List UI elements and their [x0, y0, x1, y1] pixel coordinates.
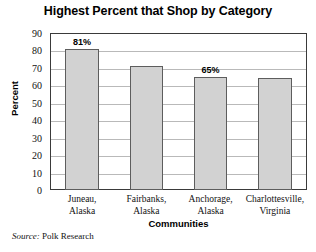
x-axis-tick-label-line: Fairbanks, [110, 193, 182, 205]
bar-slot: 81% [65, 33, 98, 190]
y-axis-tick-label: 70 [32, 62, 42, 73]
bar-slot [130, 33, 163, 190]
bar[interactable] [194, 77, 227, 190]
x-axis-tick-label-line: Virginia [239, 205, 311, 217]
x-axis-title: Communities [50, 218, 307, 229]
x-axis-tick-label: Charlottesville,Virginia [239, 193, 311, 217]
y-axis-tick-label: 20 [32, 150, 42, 161]
y-axis-tick-label: 90 [32, 28, 42, 39]
x-axis-tick-label: Juneau,Alaska [46, 193, 118, 217]
bar-chart-figure: Highest Percent that Shop by Category Pe… [0, 0, 316, 252]
y-axis-tick-label: 30 [32, 132, 42, 143]
bar-slot: 65% [194, 33, 227, 190]
y-axis-tick-label: 0 [37, 185, 42, 196]
source-text: Polk Research [42, 231, 94, 241]
source-label: Source: [12, 231, 40, 241]
y-axis-tick-label: 10 [32, 167, 42, 178]
y-axis-tick-label: 50 [32, 97, 42, 108]
x-axis-tick-label-line: Alaska [46, 205, 118, 217]
y-axis-tick-label: 80 [32, 45, 42, 56]
bar[interactable] [130, 66, 163, 190]
x-axis-tick-label: Fairbanks,Alaska [110, 193, 182, 217]
x-axis-tick-label-line: Anchorage, [175, 193, 247, 205]
y-axis-tick-labels: 0102030405060708090 [0, 33, 46, 190]
x-axis-tick-label: Anchorage,Alaska [175, 193, 247, 217]
y-axis-tick-label: 60 [32, 80, 42, 91]
source-note: Source: Polk Research [12, 231, 94, 241]
bars-layer: 81%65% [50, 33, 307, 190]
bar-value-label: 65% [202, 65, 220, 75]
x-axis-tick-label-line: Juneau, [46, 193, 118, 205]
y-axis-tick-label: 40 [32, 115, 42, 126]
bar[interactable] [258, 78, 291, 190]
bar-slot [258, 33, 291, 190]
x-axis-tick-label-line: Charlottesville, [239, 193, 311, 205]
bar-value-label: 81% [73, 37, 91, 47]
x-axis-tick-label-line: Alaska [110, 205, 182, 217]
bar[interactable] [65, 49, 98, 190]
chart-title: Highest Percent that Shop by Category [0, 4, 316, 18]
x-axis-tick-label-line: Alaska [175, 205, 247, 217]
